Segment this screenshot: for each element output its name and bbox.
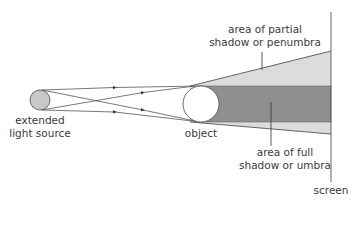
object-label: object [176, 127, 226, 140]
object-label-text: object [176, 127, 226, 140]
screen-label: screen [306, 184, 352, 197]
umbra-label: area of full shadow or umbra [225, 146, 345, 172]
penumbra-label-line2: shadow or penumbra [205, 36, 325, 49]
screen-label-text: screen [306, 184, 352, 197]
umbra-region [201, 86, 331, 122]
umbra-label-line2: shadow or umbra [225, 159, 345, 172]
light-source-label: extended light source [0, 114, 80, 140]
light-source-label-line1: extended [0, 114, 80, 127]
object-icon [183, 86, 219, 122]
umbra-label-line1: area of full [225, 146, 345, 159]
penumbra-label: area of partial shadow or penumbra [205, 23, 325, 49]
penumbra-label-line1: area of partial [205, 23, 325, 36]
light-source-icon [30, 90, 50, 110]
light-source-label-line2: light source [0, 127, 80, 140]
